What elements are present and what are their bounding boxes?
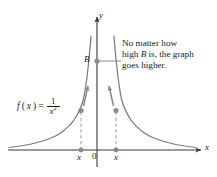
curve-dot-left bbox=[78, 108, 83, 113]
denominator-exponent: 2 bbox=[54, 104, 57, 111]
function-paren-close: ) bbox=[33, 101, 36, 112]
x-tick-label-right: x bbox=[114, 152, 118, 163]
annotation-line-2-prefix: high bbox=[122, 49, 141, 59]
annotation-line-2-suffix: is, the graph bbox=[146, 49, 193, 59]
annotation-line-3: goes higher. bbox=[122, 60, 166, 70]
x-axis-label: x bbox=[205, 142, 209, 153]
origin-label: 0 bbox=[92, 151, 97, 162]
function-argument: x bbox=[27, 101, 31, 112]
up-arrow-right bbox=[109, 86, 114, 106]
curve-left-branch bbox=[9, 36, 91, 148]
b-point-label: B bbox=[84, 54, 90, 65]
graph-figure: y x 0 x x B No matter how high B is, the… bbox=[0, 0, 217, 177]
annotation-line-1: No matter how bbox=[122, 38, 177, 48]
function-fraction: 1 x2 bbox=[47, 97, 60, 116]
function-label: f(x) = 1 x2 bbox=[17, 97, 60, 116]
y-axis-label: y bbox=[99, 10, 103, 21]
function-paren-open: ( bbox=[22, 101, 25, 112]
b-point-dot bbox=[94, 58, 99, 63]
graph-canvas bbox=[0, 0, 217, 177]
x-tick-label-left: x bbox=[77, 152, 81, 163]
function-equals: = bbox=[38, 101, 43, 112]
function-name: f bbox=[17, 101, 20, 112]
fraction-denominator: x2 bbox=[47, 107, 60, 116]
annotation-text: No matter how high B is, the graph goes … bbox=[122, 38, 214, 71]
curve-dot-right bbox=[113, 108, 118, 113]
